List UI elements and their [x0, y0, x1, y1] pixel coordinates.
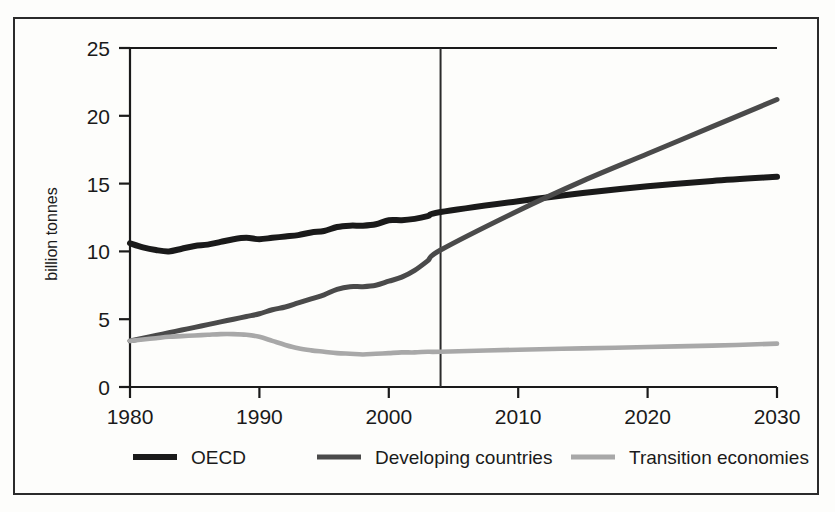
series-line-developing-countries	[130, 100, 777, 341]
y-tick-label: 15	[87, 173, 110, 196]
y-tick-label: 20	[87, 105, 110, 128]
x-tick-label: 1980	[107, 405, 154, 428]
x-tick-label: 1990	[236, 405, 283, 428]
y-tick-label: 5	[98, 308, 110, 331]
series-line-oecd	[130, 177, 777, 252]
x-tick-label: 2000	[365, 405, 412, 428]
legend-label: OECD	[191, 447, 246, 468]
y-axis-title-group: billion tonnes	[43, 187, 60, 280]
x-tick-label: 2020	[624, 405, 671, 428]
series-line-transition-economies	[130, 334, 777, 354]
y-axis-title: billion tonnes	[43, 187, 60, 280]
data-series-group	[130, 100, 777, 355]
legend-label: Developing countries	[375, 447, 552, 468]
y-tick-label: 25	[87, 37, 110, 60]
legend-label: Transition economies	[629, 447, 809, 468]
chart-figure-frame: billion tonnes 0510152025 19801990200020…	[13, 17, 819, 495]
x-tick-label: 2010	[495, 405, 542, 428]
line-chart-svg: billion tonnes 0510152025 19801990200020…	[15, 19, 821, 497]
chart-legend: OECDDeveloping countriesTransition econo…	[133, 447, 809, 468]
x-axis-ticks: 198019902000201020202030	[107, 387, 801, 428]
chart-plot-area: billion tonnes 0510152025 19801990200020…	[15, 19, 821, 497]
y-tick-label: 0	[98, 376, 110, 399]
x-tick-label: 2030	[754, 405, 801, 428]
y-tick-label: 10	[87, 240, 110, 263]
